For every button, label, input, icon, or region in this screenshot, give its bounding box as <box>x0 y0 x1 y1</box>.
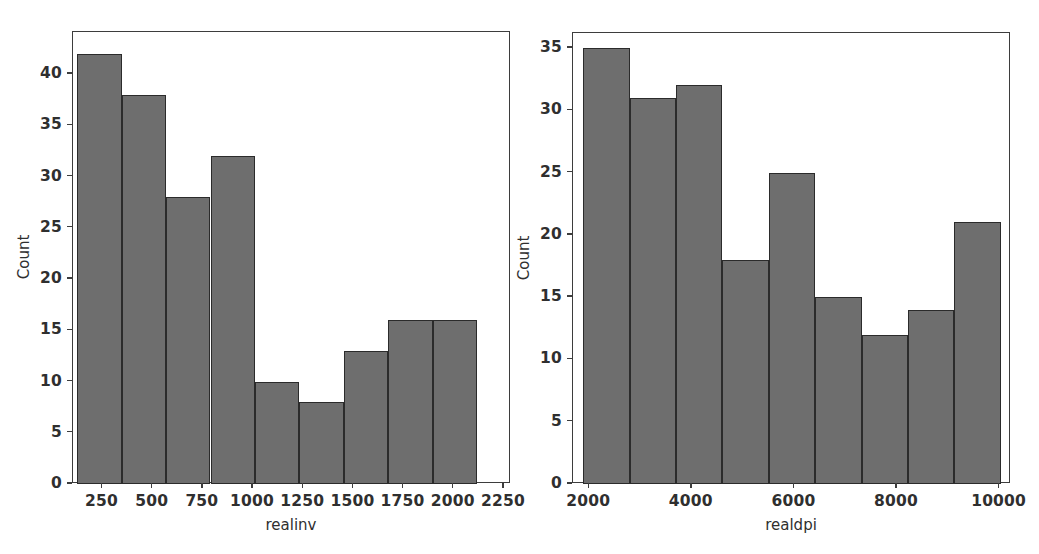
histogram-bar <box>908 310 954 484</box>
x-axis-tick <box>690 483 691 488</box>
y-axis-tick <box>67 431 72 432</box>
x-axis-tick <box>793 483 794 488</box>
x-axis-tick <box>251 483 252 488</box>
histogram-bar <box>122 95 166 484</box>
x-axis-tick <box>101 483 102 488</box>
y-axis-tick <box>567 233 572 234</box>
y-axis-tick-label: 35 <box>40 115 62 133</box>
plot-axes-realdpi <box>572 32 1010 483</box>
x-axis-tick-label: 250 <box>85 492 118 510</box>
histogram-bar <box>77 54 121 484</box>
y-axis-label-realdpi: Count <box>515 235 533 280</box>
y-axis-tick-label: 40 <box>40 64 62 82</box>
y-axis-tick <box>67 329 72 330</box>
x-axis-tick-label: 2000 <box>431 492 475 510</box>
histogram-bar <box>166 197 210 484</box>
x-axis-tick <box>402 483 403 488</box>
histogram-bar <box>433 320 478 484</box>
x-axis-tick-label: 750 <box>185 492 218 510</box>
y-axis-tick-label: 0 <box>51 474 62 492</box>
y-axis-tick <box>67 124 72 125</box>
y-axis-tick-label: 30 <box>40 167 62 185</box>
histogram-bar <box>299 402 343 484</box>
y-axis-tick <box>567 295 572 296</box>
histogram-bar <box>211 156 256 484</box>
y-axis-tick <box>67 380 72 381</box>
y-axis-tick <box>567 420 572 421</box>
x-axis-tick <box>352 483 353 488</box>
x-axis-tick-label: 2000 <box>566 492 610 510</box>
histogram-bar <box>255 382 299 484</box>
x-axis-label-realdpi: realdpi <box>765 516 817 534</box>
y-axis-tick-label: 5 <box>551 412 562 430</box>
histogram-bar <box>630 98 676 484</box>
y-axis-tick-label: 20 <box>540 225 562 243</box>
y-axis-tick <box>67 175 72 176</box>
histogram-bar <box>583 48 629 484</box>
bar-series-realinv <box>73 32 511 484</box>
histogram-bar <box>769 173 815 484</box>
histogram-bar <box>388 320 432 484</box>
bar-series-realdpi <box>573 33 1011 484</box>
y-axis-tick-label: 15 <box>540 287 562 305</box>
x-axis-tick-label: 1500 <box>330 492 374 510</box>
x-axis-tick <box>151 483 152 488</box>
y-axis-tick-label: 20 <box>40 269 62 287</box>
y-axis-tick-label: 10 <box>40 372 62 390</box>
histogram-bar <box>862 335 908 485</box>
y-axis-tick <box>67 277 72 278</box>
histogram-bar <box>676 85 722 484</box>
y-axis-tick <box>67 72 72 73</box>
y-axis-tick <box>567 46 572 47</box>
y-axis-tick-label: 25 <box>40 218 62 236</box>
y-axis-tick <box>567 358 572 359</box>
histogram-bar <box>815 297 861 484</box>
y-axis-tick <box>567 109 572 110</box>
y-axis-tick-label: 5 <box>51 423 62 441</box>
x-axis-tick-label: 6000 <box>771 492 815 510</box>
x-axis-tick <box>452 483 453 488</box>
y-axis-tick-label: 25 <box>540 163 562 181</box>
y-axis-tick-label: 10 <box>540 349 562 367</box>
x-axis-tick <box>588 483 589 488</box>
y-axis-tick <box>567 482 572 483</box>
x-axis-tick-label: 1000 <box>230 492 274 510</box>
histogram-bar <box>722 260 768 484</box>
x-axis-tick-label: 10000 <box>971 492 1026 510</box>
x-axis-tick <box>895 483 896 488</box>
x-axis-tick <box>502 483 503 488</box>
y-axis-tick <box>67 226 72 227</box>
plot-axes-realinv <box>72 31 510 483</box>
y-axis-tick-label: 0 <box>551 474 562 492</box>
histogram-panel-realinv: 0510152025303540250500750100012501500175… <box>0 0 520 554</box>
x-axis-tick <box>302 483 303 488</box>
histogram-bar <box>954 222 1000 484</box>
x-axis-tick-label: 1250 <box>280 492 324 510</box>
x-axis-label-realinv: realinv <box>266 516 317 534</box>
x-axis-tick-label: 500 <box>135 492 168 510</box>
y-axis-tick-label: 35 <box>540 38 562 56</box>
y-axis-tick-label: 15 <box>40 320 62 338</box>
y-axis-label-realinv: Count <box>15 235 33 280</box>
figure-canvas: 0510152025303540250500750100012501500175… <box>0 0 1039 554</box>
x-axis-tick-label: 8000 <box>874 492 918 510</box>
x-axis-tick-label: 4000 <box>669 492 713 510</box>
x-axis-tick <box>998 483 999 488</box>
y-axis-tick <box>567 171 572 172</box>
x-axis-tick-label: 1750 <box>381 492 425 510</box>
y-axis-tick-label: 30 <box>540 100 562 118</box>
x-axis-tick <box>201 483 202 488</box>
y-axis-tick <box>67 482 72 483</box>
histogram-bar <box>344 351 388 484</box>
histogram-panel-realdpi: 05101520253035200040006000800010000 real… <box>519 0 1039 554</box>
